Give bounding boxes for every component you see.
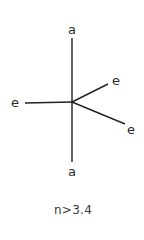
diagram-caption: n>3.4	[54, 204, 92, 216]
label-equatorial-upper-right: e	[112, 74, 120, 87]
bond-equatorial-lower-right	[72, 102, 125, 124]
label-axial-bottom: a	[68, 165, 76, 178]
bond-equatorial-left	[25, 102, 72, 103]
label-axial-top: a	[68, 23, 76, 36]
label-equatorial-left: e	[11, 96, 19, 109]
label-equatorial-lower-right: e	[127, 123, 135, 136]
bond-equatorial-upper-right	[72, 84, 108, 102]
